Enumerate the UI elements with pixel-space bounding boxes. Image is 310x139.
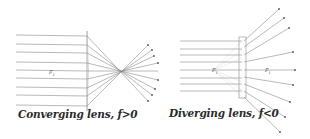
focal-point-label-converging: F1: [48, 69, 55, 77]
focal-point-label-diverging-right: F1: [264, 67, 271, 75]
ray-end-markers: [147, 44, 159, 102]
diverging-lens-caption: Diverging lens, f<0: [169, 107, 279, 119]
converging-lens-caption: Converging lens, f>0: [18, 108, 137, 120]
refracted-rays: [87, 36, 158, 106]
converging-lens-diagram: [16, 31, 159, 111]
virtual-rays: [214, 41, 242, 97]
